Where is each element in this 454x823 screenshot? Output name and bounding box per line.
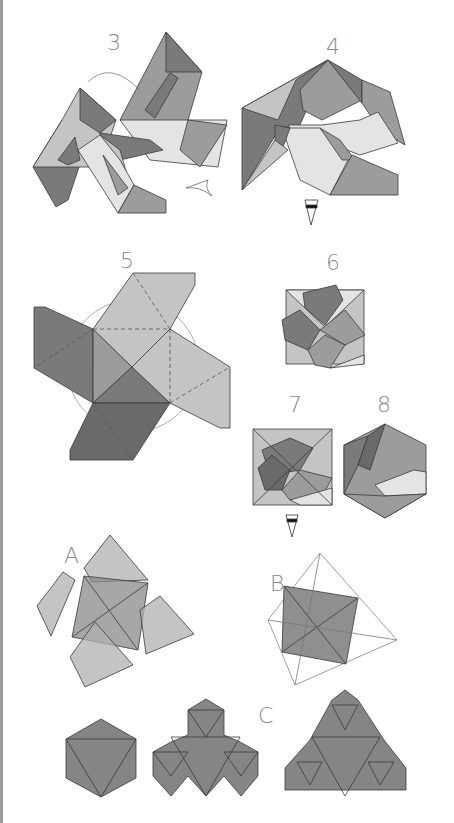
variant-b-diagram xyxy=(268,553,397,685)
step-5-diagram xyxy=(34,273,230,460)
eye-view-icon xyxy=(305,200,318,225)
variant-c-diagram xyxy=(66,690,406,797)
variant-a-diagram xyxy=(37,535,194,687)
step-6-diagram xyxy=(282,285,365,368)
step-7-diagram xyxy=(253,429,332,505)
eye-view-icon xyxy=(286,515,298,537)
single-octahedron xyxy=(66,719,136,797)
step-8-diagram xyxy=(344,424,426,518)
sierpinski-level-2 xyxy=(285,690,406,796)
diagram-canvas xyxy=(0,0,454,823)
step-4-diagram xyxy=(242,60,405,195)
sierpinski-level-1 xyxy=(153,699,258,796)
turn-over-arrow-icon xyxy=(186,180,212,196)
